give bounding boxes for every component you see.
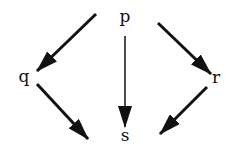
edge-p-r [158,23,211,74]
edge-r-s [160,87,207,134]
node-q: q [19,68,30,85]
edge-p-q [37,14,96,71]
graph-canvas [0,0,235,150]
node-s: s [121,127,130,144]
node-p: p [120,8,131,25]
edge-q-s [37,84,88,139]
node-r: r [212,69,220,86]
